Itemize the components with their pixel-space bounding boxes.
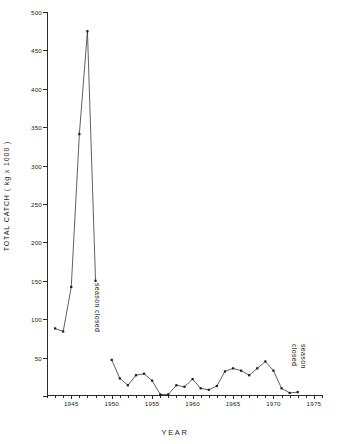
y-tick-label-100: 100 xyxy=(31,316,42,323)
data-point-1948 xyxy=(94,280,96,282)
y-tick-label-200: 200 xyxy=(31,239,42,246)
annotation-line-1: season xyxy=(300,344,307,369)
data-point-1945 xyxy=(70,286,72,288)
y-tick-label-50: 50 xyxy=(35,354,42,361)
data-point-1950 xyxy=(111,359,113,361)
data-point-1953 xyxy=(135,374,137,376)
y-tick-label-500: 500 xyxy=(31,9,42,16)
data-point-1944 xyxy=(62,330,64,332)
y-tick-label-450: 450 xyxy=(31,47,42,54)
data-point-1963 xyxy=(216,385,218,387)
x-tick-label-1945: 1945 xyxy=(64,400,79,407)
data-point-1960 xyxy=(191,378,193,380)
data-point-1961 xyxy=(200,387,202,389)
data-point-1954 xyxy=(143,373,145,375)
x-axis-title: YEAR xyxy=(162,428,189,437)
data-point-1972 xyxy=(289,392,291,394)
annotation-season-closed-left: season closed xyxy=(94,283,101,332)
series-line-1 xyxy=(112,360,298,395)
data-point-1965 xyxy=(232,367,234,369)
x-tick-1976 xyxy=(322,395,323,398)
y-tick-label-350: 350 xyxy=(31,124,42,131)
x-tick-label-1955: 1955 xyxy=(145,400,160,407)
data-point-1952 xyxy=(127,384,129,386)
series-line-0 xyxy=(55,31,95,331)
data-point-1947 xyxy=(86,30,88,32)
x-tick-label-1950: 1950 xyxy=(104,400,119,407)
data-point-1970 xyxy=(272,370,274,372)
chart-figure: TOTAL CATCH ( kg x 1000 ) YEAR 501001502… xyxy=(0,0,349,444)
data-point-1962 xyxy=(208,389,210,391)
x-tick-label-1965: 1965 xyxy=(226,400,241,407)
x-tick-label-1970: 1970 xyxy=(266,400,281,407)
data-point-1971 xyxy=(280,387,282,389)
y-tick-label-400: 400 xyxy=(31,85,42,92)
annotation-season-closed-right: season closed xyxy=(290,344,307,369)
data-point-1958 xyxy=(175,384,177,386)
data-point-1951 xyxy=(119,377,121,379)
y-tick-label-150: 150 xyxy=(31,277,42,284)
data-point-1959 xyxy=(183,386,185,388)
x-tick-label-1975: 1975 xyxy=(307,400,322,407)
x-tick-label-1960: 1960 xyxy=(185,400,200,407)
data-point-1943 xyxy=(54,327,56,329)
y-tick-label-250: 250 xyxy=(31,201,42,208)
annotation-line-2: closed xyxy=(291,344,298,366)
y-axis-title: TOTAL CATCH ( kg x 1000 ) xyxy=(3,141,10,252)
data-point-1956 xyxy=(159,393,161,395)
data-point-1969 xyxy=(264,360,266,362)
data-point-1955 xyxy=(151,380,153,382)
data-point-1967 xyxy=(248,374,250,376)
data-point-1946 xyxy=(78,133,80,135)
data-point-1966 xyxy=(240,370,242,372)
data-point-1957 xyxy=(167,393,169,395)
data-series-layer xyxy=(47,12,322,396)
data-point-1964 xyxy=(224,370,226,372)
data-point-1968 xyxy=(256,367,258,369)
data-point-1973 xyxy=(297,391,299,393)
y-tick-label-300: 300 xyxy=(31,162,42,169)
plot-area: 50100150200250300350400450500 1945195019… xyxy=(47,12,322,396)
